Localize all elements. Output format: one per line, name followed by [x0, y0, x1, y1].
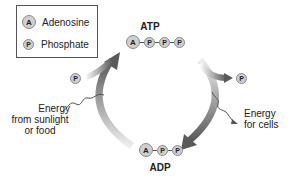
phosphate-in-icon: P	[70, 73, 81, 84]
arrow-adp-to-atp	[99, 62, 132, 146]
phosphate-icon: P	[144, 37, 155, 48]
phosphate-icon: P	[174, 37, 185, 48]
energy-output-label: Energy for cells	[244, 108, 294, 130]
legend-item-phosphate: P Phosphate	[22, 39, 89, 50]
arrow-phosphate-out	[200, 64, 226, 78]
atp-label: ATP	[138, 21, 162, 32]
legend: A Adenosine P Phosphate	[16, 5, 98, 58]
phosphate-icon: P	[23, 39, 34, 50]
adenosine-icon: A	[126, 35, 140, 49]
adenosine-icon: A	[22, 15, 36, 29]
legend-item-adenosine: A Adenosine	[22, 15, 89, 29]
energy-input-label: Energy from sunlight or food	[10, 103, 70, 136]
phosphate-out-icon: P	[236, 73, 247, 84]
adp-molecule: A P P	[139, 143, 183, 157]
legend-label: Phosphate	[41, 39, 89, 50]
phosphate-icon: P	[159, 37, 170, 48]
adenosine-icon: A	[139, 143, 153, 157]
phosphate-icon: P	[172, 145, 183, 156]
atp-molecule: A P P P	[126, 35, 185, 49]
legend-label: Adenosine	[42, 17, 89, 28]
adp-label: ADP	[148, 162, 172, 173]
phosphate-icon: P	[157, 145, 168, 156]
